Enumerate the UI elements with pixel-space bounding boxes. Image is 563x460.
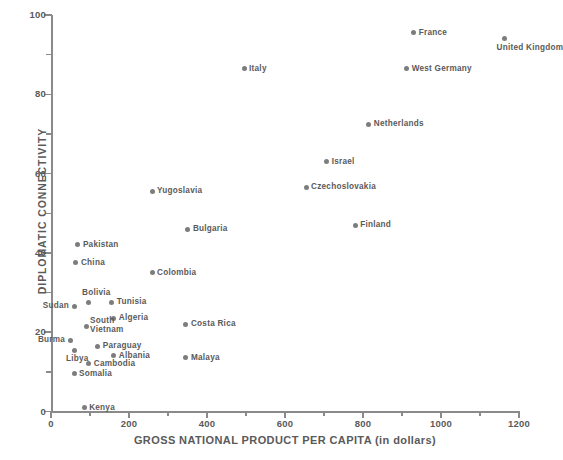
data-point-label: Sudan xyxy=(43,301,69,310)
data-point-marker xyxy=(353,223,358,228)
data-point-label: Finland xyxy=(360,220,391,229)
data-point-marker xyxy=(304,185,309,190)
x-tick-label: 1000 xyxy=(411,419,471,429)
data-point-label: Bulgaria xyxy=(193,224,228,233)
x-tick-minor xyxy=(89,411,91,416)
data-point-label: Burma xyxy=(38,335,65,344)
data-point-label: United Kingdom xyxy=(497,43,563,52)
x-tick-major xyxy=(440,411,442,418)
y-tick-minor xyxy=(46,54,52,56)
data-point-label: Czechoslovakia xyxy=(311,182,376,191)
data-point-label: Colombia xyxy=(157,268,196,277)
data-point-marker xyxy=(150,189,155,194)
data-point-label: Bolivia xyxy=(82,288,111,297)
y-tick-label: 100 xyxy=(6,10,46,20)
data-point-marker xyxy=(242,66,247,71)
x-tick-major xyxy=(284,411,286,418)
y-tick-label: 0 xyxy=(6,407,46,417)
x-tick-label: 200 xyxy=(99,419,159,429)
data-point-label: France xyxy=(419,28,447,37)
x-tick-major xyxy=(206,411,208,418)
data-point-marker xyxy=(150,270,155,275)
x-tick-label: 0 xyxy=(21,419,81,429)
data-point-marker xyxy=(68,338,73,343)
x-tick-minor xyxy=(401,411,403,416)
data-point-marker xyxy=(84,324,89,329)
x-tick-label: 1200 xyxy=(489,419,549,429)
x-tick-minor xyxy=(479,411,481,416)
data-point-marker xyxy=(502,36,507,41)
data-point-marker xyxy=(86,361,91,366)
x-tick-label: 800 xyxy=(333,419,393,429)
data-point-marker xyxy=(109,300,114,305)
data-point-marker xyxy=(183,355,188,360)
data-point-label: Pakistan xyxy=(83,240,119,249)
data-point-marker xyxy=(183,322,188,327)
x-tick-minor xyxy=(323,411,325,416)
x-tick-minor xyxy=(245,411,247,416)
data-point-marker xyxy=(72,371,77,376)
data-point-marker xyxy=(366,122,371,127)
x-tick-label: 400 xyxy=(177,419,237,429)
data-point-label: Paraguay xyxy=(103,341,142,350)
data-point-label: Somalia xyxy=(79,369,112,378)
data-point-label: China xyxy=(81,258,105,267)
x-tick-major xyxy=(50,411,52,418)
data-point-marker xyxy=(86,300,91,305)
data-point-marker xyxy=(111,353,116,358)
data-point-marker xyxy=(411,30,416,35)
data-point-label: Libya xyxy=(66,354,89,363)
data-point-marker xyxy=(75,242,80,247)
data-point-marker xyxy=(185,227,190,232)
data-point-label: Israel xyxy=(332,157,355,166)
data-point-marker xyxy=(324,159,329,164)
data-point-marker xyxy=(73,260,78,265)
data-point-label: Italy xyxy=(249,64,267,73)
x-tick-minor xyxy=(167,411,169,416)
x-axis-title: GROSS NATIONAL PRODUCT PER CAPITA (in do… xyxy=(51,434,519,446)
data-point-label: SouthVietnam xyxy=(90,316,123,334)
data-point-marker xyxy=(72,304,77,309)
x-tick-major xyxy=(362,411,364,418)
x-tick-major xyxy=(518,411,520,418)
y-tick-minor xyxy=(46,371,52,373)
x-tick-label: 600 xyxy=(255,419,315,429)
data-point-marker xyxy=(82,405,87,410)
data-point-label: Netherlands xyxy=(374,119,424,128)
data-point-label: Yugoslavia xyxy=(157,186,202,195)
data-point-label: West Germany xyxy=(412,64,472,73)
x-tick-major xyxy=(128,411,130,418)
data-point-label: Costa Rica xyxy=(191,319,236,328)
data-point-label: Tunisia xyxy=(117,297,147,306)
data-point-marker xyxy=(404,66,409,71)
data-point-label: Kenya xyxy=(89,403,115,412)
data-point-label: Malaya xyxy=(191,353,220,362)
data-point-marker xyxy=(72,348,77,353)
data-point-marker xyxy=(95,344,100,349)
data-point-label: Cambodia xyxy=(94,359,136,368)
